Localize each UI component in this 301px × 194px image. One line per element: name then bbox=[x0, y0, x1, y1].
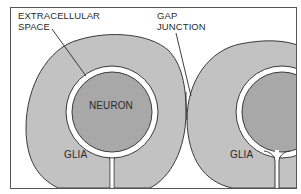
gap-junction-label-line1: GAP bbox=[157, 10, 206, 21]
gap-junction-channel bbox=[186, 92, 187, 120]
left-neuron bbox=[72, 72, 152, 152]
gap-junction-label: GAP JUNCTION bbox=[157, 10, 206, 32]
extracellular-space-label-line2: SPACE bbox=[18, 21, 100, 32]
gap-junction-label-line2: JUNCTION bbox=[157, 21, 206, 32]
glia-right-label: GLIA bbox=[230, 149, 253, 160]
glia-left-label: GLIA bbox=[64, 149, 87, 160]
neuron-glia-diagram: EXTRACELLULAR SPACE GAP JUNCTION NEURON … bbox=[0, 0, 301, 194]
extracellular-space-label: EXTRACELLULAR SPACE bbox=[18, 10, 100, 32]
neuron-label: NEURON bbox=[89, 100, 133, 111]
extracellular-space-label-line1: EXTRACELLULAR bbox=[18, 10, 100, 21]
